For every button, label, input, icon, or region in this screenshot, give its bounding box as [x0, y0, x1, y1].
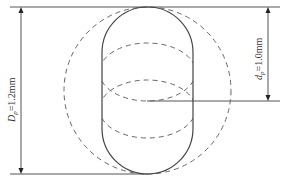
- inner-dashed-circles: [100, 43, 196, 138]
- inner-dimension-label: dp=1.0mm: [253, 38, 266, 80]
- outer-dimension-arrow: [19, 7, 24, 174]
- capsule-outline: [102, 7, 193, 174]
- inner-dashed-circle-upper: [100, 43, 196, 101]
- inner-dimension-arrow: [266, 7, 271, 101]
- outer-dashed-circle: [64, 7, 231, 174]
- capsule-diagram: Dp=1.2mm dp=1.0mm: [0, 0, 283, 184]
- arrowhead-up-icon: [19, 7, 24, 13]
- arrowhead-up-icon: [266, 7, 271, 13]
- inner-dashed-circle-lower: [100, 80, 196, 138]
- outer-dimension-label: Dp=1.2mm: [6, 77, 19, 123]
- arrowhead-down-icon: [266, 95, 271, 101]
- arrowhead-down-icon: [19, 168, 24, 174]
